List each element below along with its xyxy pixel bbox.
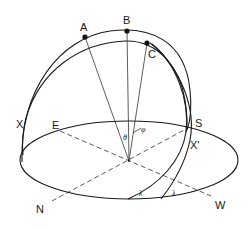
radius-to-C: [129, 43, 147, 161]
label-S: S: [195, 117, 202, 129]
label-N: N: [36, 203, 44, 215]
label-theta: θ: [123, 133, 127, 142]
point-A-dot: [82, 34, 87, 39]
label-X: X: [16, 118, 24, 130]
label-phi: φ: [141, 125, 146, 134]
label-E: E: [52, 119, 59, 131]
point-B-dot: [124, 28, 129, 33]
label-lambda-1: λ: [138, 189, 143, 198]
label-W: W: [215, 199, 226, 211]
label-C: C: [148, 48, 156, 60]
celestial-hemisphere-diagram: A B C X E S X' N W θ φ λ λ: [0, 0, 251, 229]
radius-to-A: [85, 37, 129, 161]
point-C-dot: [144, 40, 149, 45]
label-lambda-2: λ: [171, 189, 176, 198]
radius-to-B: [127, 31, 129, 161]
label-X-prime: X': [190, 139, 199, 151]
north-south-dashed-line: [52, 129, 186, 201]
label-A: A: [80, 21, 88, 33]
center-point: [128, 160, 130, 162]
label-B: B: [123, 14, 130, 26]
east-west-dashed-line: [60, 131, 211, 196]
